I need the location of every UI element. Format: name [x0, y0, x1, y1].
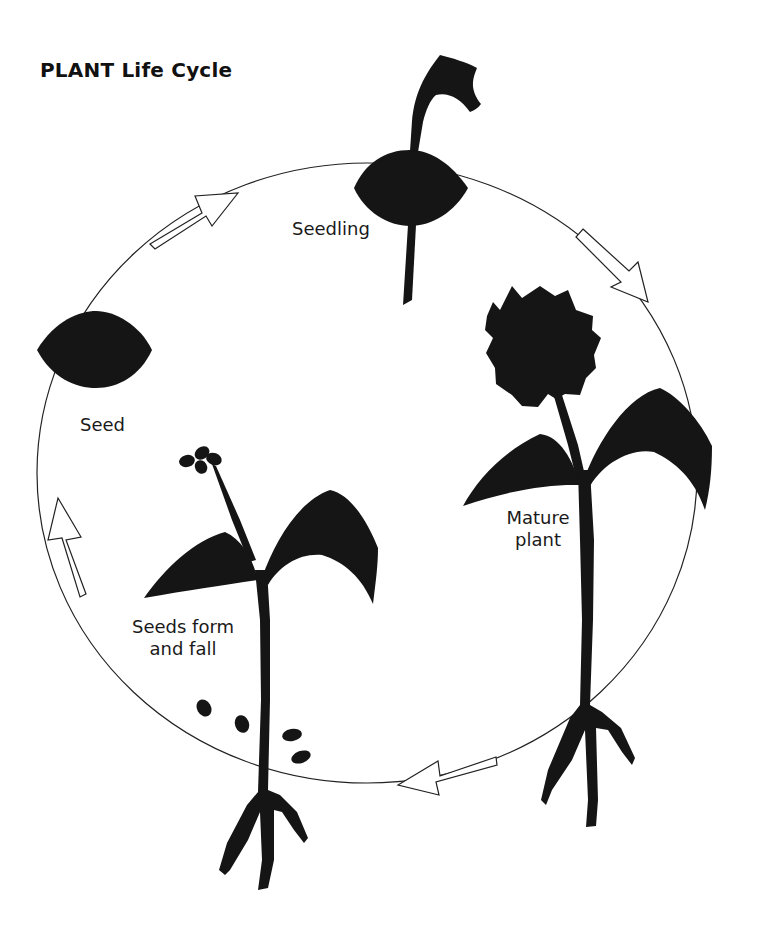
- seeding-plant-icon: [144, 443, 378, 890]
- label-mature-plant: Mature plant: [498, 507, 578, 551]
- arrow-mature-to-seeds-icon: [398, 757, 497, 795]
- arrow-seeds-to-seed-icon: [48, 498, 86, 597]
- life-cycle-diagram: [0, 0, 761, 947]
- label-mature-line2: plant: [498, 529, 578, 551]
- mature-plant-icon: [463, 286, 712, 827]
- label-seedling: Seedling: [292, 218, 370, 240]
- label-seed: Seed: [80, 414, 125, 436]
- seedling-icon: [354, 55, 481, 305]
- seed-icon: [37, 311, 152, 388]
- label-seeds-line1: Seeds form: [128, 616, 238, 638]
- arrow-seed-to-seedling-icon: [150, 193, 238, 249]
- arrow-seedling-to-mature-icon: [576, 229, 648, 302]
- label-seeds-form: Seeds form and fall: [128, 616, 238, 660]
- label-mature-line1: Mature: [498, 507, 578, 529]
- label-seeds-line2: and fall: [128, 638, 238, 660]
